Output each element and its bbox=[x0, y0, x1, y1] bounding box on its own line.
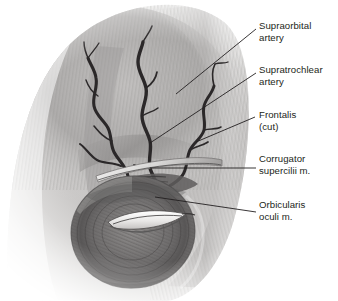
anatomy-illustration bbox=[0, 0, 338, 301]
label-line-1: Orbicularis bbox=[259, 199, 305, 211]
label-line-2: supercilii m. bbox=[259, 165, 310, 177]
label-orbicularis-oculi: Orbicularis oculi m. bbox=[259, 199, 305, 222]
label-corrugator-supercilii: Corrugator supercilii m. bbox=[259, 153, 310, 176]
anatomical-figure: Supraorbital artery Supratrochlear arter… bbox=[0, 0, 338, 301]
label-supratrochlear-artery: Supratrochlear artery bbox=[259, 64, 323, 87]
label-supraorbital-artery: Supraorbital artery bbox=[259, 20, 311, 43]
label-line-1: Corrugator bbox=[259, 153, 310, 165]
label-line-2: artery bbox=[259, 76, 323, 88]
label-line-1: Supratrochlear bbox=[259, 64, 323, 76]
label-frontalis-cut: Frontalis (cut) bbox=[259, 109, 296, 132]
label-line-2: artery bbox=[259, 32, 311, 44]
label-line-2: oculi m. bbox=[259, 211, 305, 223]
specimen-body bbox=[0, 0, 338, 301]
label-line-1: Frontalis bbox=[259, 109, 296, 121]
label-line-2: (cut) bbox=[259, 121, 296, 133]
label-line-1: Supraorbital bbox=[259, 20, 311, 32]
